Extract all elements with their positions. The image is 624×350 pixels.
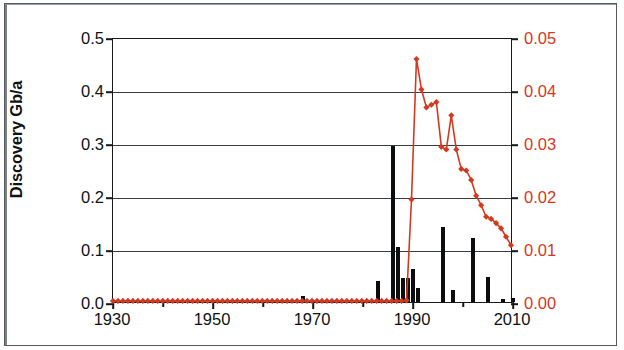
production-marker-diamond (289, 298, 295, 304)
tick-mark-y-left (106, 250, 113, 252)
production-marker-diamond (498, 225, 504, 231)
production-marker-diamond (364, 298, 370, 304)
production-marker-diamond (483, 214, 489, 220)
chart-figure: Discovery Gb/a Production Gb/a 0.00.10.2… (0, 0, 624, 350)
production-marker-diamond (264, 298, 270, 304)
bar (451, 290, 455, 302)
production-marker-diamond (234, 298, 240, 304)
production-marker-diamond (175, 298, 181, 304)
production-marker-diamond (369, 298, 375, 304)
tick-mark-x-minor (262, 302, 264, 307)
y-axis-right-tick-label: 0.02 (524, 188, 556, 207)
production-marker-diamond (115, 298, 121, 304)
gridline (113, 145, 511, 146)
bar (501, 299, 505, 302)
production-marker-diamond (120, 298, 126, 304)
production-marker-diamond (150, 298, 156, 304)
production-marker-diamond (354, 298, 360, 304)
tick-mark-y-left (106, 144, 113, 146)
production-marker-diamond (165, 298, 171, 304)
production-marker-diamond (254, 298, 260, 304)
x-axis-tick-label: 1970 (294, 310, 331, 329)
y-axis-right-ticks: 0.000.010.020.030.040.05 (524, 0, 584, 350)
tick-mark-y-left (106, 38, 113, 40)
tick-mark-x-major (112, 302, 114, 309)
production-marker-diamond (324, 298, 330, 304)
plot-area (112, 38, 512, 303)
y-axis-left-tick-label: 0.3 (81, 135, 104, 154)
tick-mark-x-major (312, 302, 314, 309)
production-marker-diamond (125, 298, 131, 304)
production-marker-diamond (274, 298, 280, 304)
bar (391, 146, 395, 302)
production-marker-diamond (224, 298, 230, 304)
production-marker-diamond (423, 104, 429, 110)
production-marker-diamond (508, 242, 514, 248)
bar (416, 288, 420, 302)
y-axis-left-tick-label: 0.4 (81, 82, 104, 101)
tick-mark-y-right (511, 91, 518, 93)
bar (441, 227, 445, 302)
y-axis-right-tick-label: 0.03 (524, 135, 556, 154)
bar (401, 278, 405, 302)
production-marker-diamond (428, 102, 434, 108)
tick-mark-x-major (212, 302, 214, 309)
tick-mark-x-minor (462, 302, 464, 307)
line-series-production (113, 39, 511, 302)
production-marker-diamond (249, 298, 255, 304)
production-marker-diamond (244, 298, 250, 304)
production-marker-diamond (170, 298, 176, 304)
tick-mark-y-right (511, 38, 518, 40)
x-axis-ticks: 19301950197019902010 (0, 310, 624, 336)
production-marker-diamond (214, 298, 220, 304)
production-marker-diamond (448, 112, 454, 118)
production-marker-diamond (339, 298, 345, 304)
production-marker-diamond (239, 298, 245, 304)
bar (301, 296, 305, 302)
y-axis-right-tick-label: 0.05 (524, 29, 556, 48)
x-axis-tick-label: 1930 (94, 310, 131, 329)
tick-mark-y-left (106, 91, 113, 93)
production-marker-diamond (269, 298, 275, 304)
production-marker-diamond (433, 99, 439, 105)
tick-mark-x-minor (162, 302, 164, 307)
production-marker-diamond (294, 298, 300, 304)
x-axis-tick-label: 2010 (494, 310, 531, 329)
production-marker-diamond (185, 298, 191, 304)
production-marker-diamond (413, 56, 419, 62)
production-marker-diamond (443, 146, 449, 152)
gridline (113, 251, 511, 252)
production-marker-diamond (453, 146, 459, 152)
production-marker-diamond (199, 298, 205, 304)
production-marker-diamond (314, 298, 320, 304)
production-marker-diamond (190, 298, 196, 304)
production-marker-diamond (180, 298, 186, 304)
gridline (113, 198, 511, 199)
production-marker-diamond (204, 298, 210, 304)
y-axis-right-tick-label: 0.01 (524, 241, 556, 260)
bar (396, 247, 400, 302)
production-marker-diamond (219, 298, 225, 304)
production-marker-diamond (503, 234, 509, 240)
production-marker-diamond (463, 167, 469, 173)
production-marker-diamond (319, 298, 325, 304)
y-axis-left-tick-label: 0.5 (81, 29, 104, 48)
y-axis-left-title: Discovery Gb/a (7, 40, 26, 240)
production-marker-diamond (130, 298, 136, 304)
production-marker-diamond (334, 298, 340, 304)
tick-mark-x-major (412, 302, 414, 309)
production-marker-diamond (279, 298, 285, 304)
tick-mark-y-right (511, 144, 518, 146)
bar (376, 281, 380, 302)
bar (406, 278, 410, 302)
bar (471, 238, 475, 302)
production-marker-diamond (478, 202, 484, 208)
production-marker-diamond (349, 298, 355, 304)
production-marker-diamond (155, 298, 161, 304)
production-marker-diamond (493, 220, 499, 226)
production-marker-diamond (329, 298, 335, 304)
x-axis-tick-label: 1950 (194, 310, 231, 329)
production-marker-diamond (229, 298, 235, 304)
production-line-path (113, 59, 511, 301)
tick-mark-y-left (106, 197, 113, 199)
